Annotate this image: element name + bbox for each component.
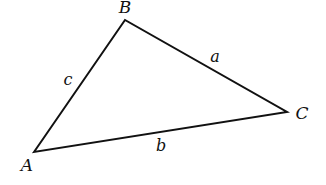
triangle-diagram: A B C a b c xyxy=(0,0,326,185)
side-label-b: b xyxy=(156,136,166,155)
vertex-label-c: C xyxy=(295,103,308,123)
side-label-c: c xyxy=(64,70,73,89)
vertex-label-b: B xyxy=(118,0,132,17)
vertex-label-a: A xyxy=(19,155,33,175)
side-label-a: a xyxy=(210,47,220,66)
